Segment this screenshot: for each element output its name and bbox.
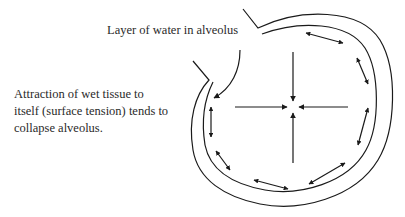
alveolus-diagram bbox=[0, 0, 405, 217]
alveolus-inner-wall bbox=[203, 25, 376, 191]
double-arrow-icon bbox=[306, 33, 343, 43]
double-arrow-icon bbox=[309, 163, 345, 184]
pointer-arrow bbox=[214, 50, 240, 98]
double-arrow-icon bbox=[357, 58, 368, 84]
double-arrow-icon bbox=[358, 108, 368, 145]
double-arrow-icon bbox=[254, 180, 288, 189]
alveolus-outer-wall bbox=[191, 9, 392, 206]
double-arrow-icon bbox=[216, 151, 230, 170]
